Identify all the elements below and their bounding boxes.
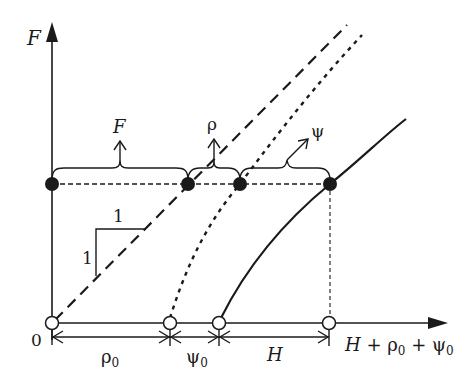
- x-axis-label-rho-sub: 0: [398, 344, 406, 358]
- origin-label: 0: [31, 330, 42, 350]
- point-F-axis: [45, 177, 59, 191]
- point-rho0: [164, 317, 177, 330]
- x-axis-label: H + ρ0 + ψ0: [344, 334, 454, 358]
- y-axis-arrowhead-icon: [46, 22, 58, 42]
- point-dashed: [181, 177, 195, 191]
- x-axis-label-rho: + ρ: [361, 334, 398, 355]
- dotted-rho-curve: [170, 35, 362, 318]
- point-solid: [323, 177, 337, 191]
- brace-psi-label: ψ: [311, 121, 324, 141]
- point-psi0: [213, 317, 226, 330]
- slope-horizontal-label: 1: [113, 206, 124, 226]
- brace-F: [52, 141, 188, 180]
- brace-rho-label: ρ: [207, 114, 217, 134]
- brace-rho: [188, 139, 240, 180]
- dim-rho0-label: ρ0: [101, 346, 119, 370]
- slope-vertical-label: 1: [82, 248, 93, 268]
- x-axis-arrowhead-icon: [428, 317, 448, 329]
- brace-F-label: F: [112, 116, 127, 137]
- dashed-linear-curve: [55, 25, 347, 320]
- x-axis-label-psi: + ψ: [405, 334, 446, 355]
- dim-H-label: H: [266, 344, 283, 365]
- x-axis-label-H: H: [344, 334, 361, 355]
- point-H: [323, 317, 336, 330]
- x-axis: [52, 317, 448, 329]
- solid-response-curve: [221, 119, 406, 318]
- dim-psi0-label: ψ0: [186, 346, 208, 370]
- y-axis-label: F: [26, 26, 42, 50]
- point-dotted: [233, 177, 247, 191]
- brace-psi: [240, 139, 330, 180]
- dimension-lines: [52, 330, 329, 346]
- x-axis-label-psi-sub: 0: [446, 344, 454, 358]
- point-origin: [46, 317, 59, 330]
- force-diagram: F 0 H + ρ0 + ψ0 1 1 F ρ ψ: [0, 0, 469, 379]
